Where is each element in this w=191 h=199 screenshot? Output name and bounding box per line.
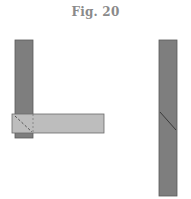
right-scarf-joint bbox=[159, 40, 177, 196]
joint-diagram bbox=[0, 0, 191, 199]
right-vertical-member bbox=[159, 40, 177, 196]
left-corner-joint bbox=[12, 40, 104, 138]
horizontal-member bbox=[12, 114, 104, 133]
